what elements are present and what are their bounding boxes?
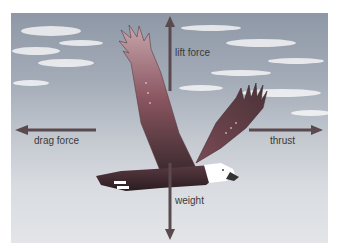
right-wing — [196, 83, 267, 163]
eagle-illustration — [11, 13, 328, 243]
weight-label: weight — [175, 195, 204, 206]
drag-force-label: drag force — [34, 135, 79, 146]
lift-force-label: lift force — [175, 47, 210, 58]
thrust-label: thrust — [270, 135, 295, 146]
body — [96, 165, 221, 191]
diagram-frame: lift force drag force thrust weight — [11, 13, 328, 243]
